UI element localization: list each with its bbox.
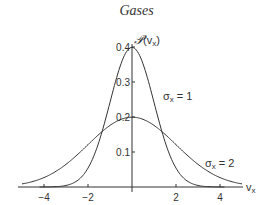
- svg-text:4: 4: [217, 192, 223, 203]
- svg-text:2: 2: [173, 192, 179, 203]
- svg-text:−2: −2: [82, 192, 94, 203]
- svg-text:0.1: 0.1: [116, 147, 130, 158]
- annotation-sigma-1: σx = 1: [163, 90, 192, 104]
- gaussian-chart: −4−224 0.10.20.30.4 𝒫(vx) vx σx = 1 σx =…: [0, 0, 273, 205]
- y-axis-label: 𝒫(vx): [134, 32, 160, 48]
- svg-text:−4: −4: [38, 192, 50, 203]
- svg-text:0.3: 0.3: [116, 77, 130, 88]
- annotation-sigma-2: σx = 2: [205, 157, 234, 171]
- x-axis-label: vx: [246, 181, 256, 195]
- svg-text:0.4: 0.4: [116, 42, 130, 53]
- axes: [18, 44, 243, 192]
